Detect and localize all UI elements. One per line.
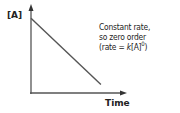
concentration: [A] <box>131 42 141 52</box>
x-axis-arrow-icon <box>120 91 127 96</box>
y-axis-label: [A] <box>7 10 22 20</box>
rate-prefix: (rate = <box>99 42 127 52</box>
annotation-line-3: (rate = k[A]0) <box>99 42 150 52</box>
x-axis-label: Time <box>105 98 130 108</box>
rate-suffix: ) <box>145 42 148 52</box>
y-axis-arrow-icon <box>29 4 34 11</box>
annotation: Constant rate, so zero order (rate = k[A… <box>99 22 150 52</box>
chart-plot <box>0 0 180 113</box>
annotation-line-1: Constant rate, <box>99 22 150 32</box>
series-line-0 <box>31 18 101 84</box>
